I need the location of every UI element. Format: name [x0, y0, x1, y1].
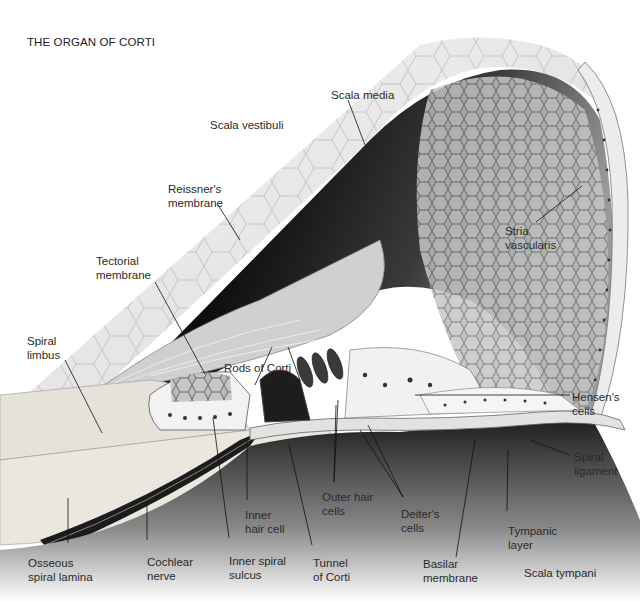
label-inner-spiral-sulcus: Inner spiral sulcus	[229, 554, 286, 582]
label-cochlear-nerve: Cochlear nerve	[147, 555, 193, 583]
label-osseous-spiral-lamina: Osseous spiral lamina	[28, 556, 93, 584]
label-basilar-membrane: Basilar membrane	[423, 557, 478, 585]
label-inner-hair-cell: Inner hair cell	[245, 508, 285, 536]
label-tympanic-layer: Tympanic layer	[508, 524, 557, 552]
label-tectorial-membrane: Tectorial membrane	[96, 254, 151, 282]
label-stria-vascularis: Stria vascularis	[505, 224, 556, 252]
label-tunnel-of-corti: Tunnel of Corti	[313, 556, 350, 584]
organ-of-corti-illustration	[0, 0, 642, 602]
label-spiral-limbus: Spiral limbus	[27, 334, 60, 362]
label-scala-media: Scala media	[331, 88, 394, 102]
label-reissners-membrane: Reissner's membrane	[168, 182, 223, 210]
label-deiters-cells: Deiter's cells	[401, 507, 440, 535]
label-scala-vestibuli: Scala vestibuli	[210, 118, 284, 132]
label-scala-tympani: Scala tympani	[524, 566, 596, 580]
diagram-title: THE ORGAN OF CORTI	[27, 36, 155, 48]
label-rods-of-corti: Rods of Corti	[224, 361, 291, 375]
outer-hair-cells	[294, 347, 346, 389]
label-hensens-cells: Hensen's cells	[572, 390, 620, 418]
label-spiral-ligament: Spiral ligament	[574, 450, 617, 478]
label-outer-hair-cells: Outer hair cells	[322, 490, 373, 518]
